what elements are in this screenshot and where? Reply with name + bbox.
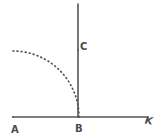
dotted-quarter-arc [13,51,79,117]
vertex-label-c: C [80,42,87,52]
geometry-figure: A B C K [0,0,160,138]
vertex-point-c [77,49,79,51]
vertex-label-b: B [75,124,83,134]
vertex-label-k: K [144,116,153,127]
figure-canvas [0,0,160,138]
vertex-label-a: A [11,125,19,135]
vertex-point-a [12,116,14,118]
